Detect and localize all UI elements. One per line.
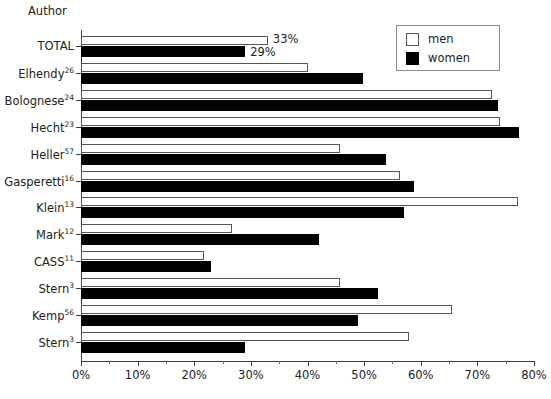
category-label-text: Heller <box>31 147 65 161</box>
x-axis-tick-label: 50% <box>351 368 377 382</box>
category-label-text: Stern <box>39 282 70 296</box>
category-label-text: Stern <box>39 336 70 350</box>
legend-label-men: men <box>428 32 454 46</box>
bar-women <box>81 100 498 111</box>
category-label-text: Kemp <box>32 309 65 323</box>
data-label-women: 29% <box>250 45 276 59</box>
category-label-superscript: 57 <box>64 147 74 156</box>
data-label-men: 33% <box>273 32 299 46</box>
legend-item-men: men <box>406 32 454 46</box>
category-label: TOTAL <box>0 39 74 53</box>
category-label-superscript: 11 <box>64 254 74 263</box>
category-label: Bolognese24 <box>0 93 74 108</box>
x-axis-tick-label: 30% <box>238 368 264 382</box>
category-label: Hecht23 <box>0 120 74 135</box>
category-label: Klein13 <box>0 200 74 215</box>
bar-women <box>81 234 319 245</box>
x-axis-tick-label: 10% <box>125 368 151 382</box>
category-label-superscript: 3 <box>69 335 74 344</box>
bar-men <box>81 332 409 341</box>
y-axis-title: Author <box>28 4 67 18</box>
x-axis-tick <box>138 361 139 366</box>
bar-men <box>81 224 232 233</box>
y-axis-tick <box>76 100 81 101</box>
legend-label-women: women <box>428 51 470 65</box>
category-label-superscript: 13 <box>64 200 74 209</box>
category-label-text: CASS <box>34 255 65 269</box>
x-axis-minor-tick <box>223 361 224 364</box>
x-axis-minor-tick <box>109 361 110 364</box>
x-axis-tick-label: 80% <box>521 368 547 382</box>
category-label: Mark12 <box>0 227 74 242</box>
bar-women <box>81 207 404 218</box>
bar-women <box>81 261 211 272</box>
x-axis-minor-tick <box>166 361 167 364</box>
y-axis-tick <box>76 207 81 208</box>
category-label: CASS11 <box>0 254 74 269</box>
y-axis-tick <box>76 288 81 289</box>
x-axis-tick <box>194 361 195 366</box>
category-label-text: Mark <box>36 228 64 242</box>
bar-men <box>81 251 204 260</box>
bar-men <box>81 171 400 180</box>
legend-swatch-women-icon <box>406 52 419 65</box>
category-label-text: Elhendy <box>18 67 64 81</box>
bar-men <box>81 278 340 287</box>
y-axis-tick <box>76 154 81 155</box>
category-label-text: Klein <box>36 201 64 215</box>
category-label-superscript: 16 <box>64 174 74 183</box>
bar-women <box>81 154 386 165</box>
y-axis-tick <box>76 342 81 343</box>
x-axis-tick <box>251 361 252 366</box>
x-axis-tick-label: 0% <box>72 368 90 382</box>
bar-women <box>81 342 245 353</box>
x-axis-tick-label: 20% <box>181 368 207 382</box>
bar-women <box>81 315 358 326</box>
legend-item-women: women <box>406 51 470 65</box>
category-label-superscript: 12 <box>64 227 74 236</box>
x-axis-tick <box>421 361 422 366</box>
category-label-text: TOTAL <box>38 39 74 53</box>
x-axis-tick-label: 70% <box>465 368 491 382</box>
category-label: Stern3 <box>0 281 74 296</box>
legend-swatch-men-icon <box>406 33 419 46</box>
category-label: Gasperetti16 <box>0 174 74 189</box>
x-axis-tick <box>81 361 82 366</box>
y-axis-tick <box>76 73 81 74</box>
x-axis-tick-label: 60% <box>408 368 434 382</box>
x-axis-tick <box>477 361 478 366</box>
bar-men <box>81 90 492 99</box>
category-label-superscript: 56 <box>64 308 74 317</box>
bar-men <box>81 197 518 206</box>
x-axis-tick-label: 40% <box>295 368 321 382</box>
category-label-text: Gasperetti <box>4 174 64 188</box>
bar-men <box>81 117 500 126</box>
bar-women <box>81 127 519 138</box>
bar-women <box>81 46 245 57</box>
category-label-superscript: 24 <box>64 93 74 102</box>
x-axis-minor-tick <box>506 361 507 364</box>
legend: men women <box>396 25 500 71</box>
bar-women <box>81 73 363 84</box>
bar-men <box>81 144 340 153</box>
x-axis-tick <box>308 361 309 366</box>
category-label-text: Hecht <box>31 121 65 135</box>
y-axis-tick <box>76 127 81 128</box>
category-label: Heller57 <box>0 147 74 162</box>
category-label-superscript: 3 <box>69 281 74 290</box>
y-axis-tick <box>76 261 81 262</box>
y-axis-tick <box>76 46 81 47</box>
bar-women <box>81 288 378 299</box>
x-axis-minor-tick <box>336 361 337 364</box>
y-axis-tick <box>76 234 81 235</box>
x-axis-minor-tick <box>449 361 450 364</box>
category-label-text: Bolognese <box>5 94 65 108</box>
x-axis-minor-tick <box>279 361 280 364</box>
x-axis-tick <box>364 361 365 366</box>
bar-men <box>81 63 308 72</box>
bar-men <box>81 305 452 314</box>
bar-women <box>81 181 414 192</box>
category-label: Elhendy26 <box>0 66 74 81</box>
y-axis-tick <box>76 315 81 316</box>
x-axis-minor-tick <box>392 361 393 364</box>
